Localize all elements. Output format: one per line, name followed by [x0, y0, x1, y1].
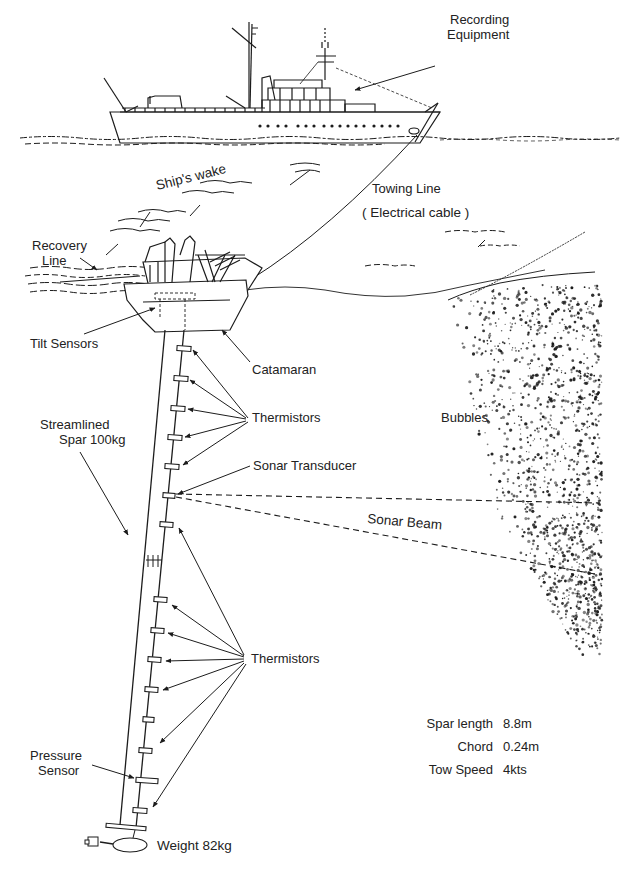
label-pressure-sensor: Pressure Sensor [30, 748, 82, 778]
label-recording-equipment-line2: Equipment [426, 27, 509, 42]
label-streamlined-spar-line2: Spar 100kg [40, 432, 126, 447]
label-catamaran: Catamaran [252, 362, 316, 377]
label-towing-line: Towing Line [372, 181, 441, 196]
label-thermistors-upper: Thermistors [252, 410, 321, 425]
spar-specs-table: Spar length 8.8m Chord 0.24m Tow Speed 4… [380, 712, 539, 781]
label-bubbles: Bubbles [441, 410, 488, 425]
spec-key: Tow Speed [380, 758, 503, 781]
label-electrical-cable: ( Electrical cable ) [362, 205, 469, 220]
label-pressure-sensor-line2: Sensor [30, 763, 82, 778]
label-thermistors-lower: Thermistors [251, 651, 320, 666]
sonar-transducer-pointer [178, 466, 250, 494]
label-sonar-transducer: Sonar Transducer [253, 458, 356, 473]
streamlined-spar-pointer [80, 452, 128, 535]
spec-key: Spar length [380, 712, 503, 735]
spec-key: Chord [380, 735, 503, 758]
label-streamlined-spar-line1: Streamlined [40, 417, 126, 432]
label-recovery-line: Recovery Line [32, 238, 87, 268]
label-recovery-line-line1: Recovery [32, 238, 87, 253]
research-ship [104, 22, 440, 143]
label-weight: Weight 82kg [157, 838, 232, 853]
recording-equipment-pointer [355, 66, 435, 90]
label-streamlined-spar: Streamlined Spar 100kg [40, 417, 126, 447]
sonar-beam [176, 494, 600, 575]
bubble-cloud [452, 284, 603, 656]
spec-value: 0.24m [503, 735, 539, 758]
spec-row-chord: Chord 0.24m [380, 735, 539, 758]
label-pressure-sensor-line1: Pressure [30, 748, 82, 763]
spec-value: 8.8m [503, 712, 532, 735]
thermistors-lower-pointers [153, 528, 246, 807]
catamaran [124, 236, 262, 332]
label-recording-equipment: Recording Equipment [426, 12, 509, 42]
spec-row-tow-speed: Tow Speed 4kts [380, 758, 539, 781]
label-tilt-sensors: Tilt Sensors [30, 336, 98, 351]
label-recording-equipment-line1: Recording [426, 12, 509, 27]
bubble-surface-crest [470, 232, 585, 295]
spec-row-spar-length: Spar length 8.8m [380, 712, 539, 735]
streamlined-spar [85, 330, 184, 852]
thermistors-upper-pointers [183, 350, 248, 465]
label-recovery-line-line2: Line [32, 253, 87, 268]
spec-value: 4kts [503, 758, 527, 781]
catamaran-pointer [222, 330, 250, 362]
bubble-surface-line [448, 272, 595, 300]
pressure-sensor-pointer [92, 765, 134, 778]
